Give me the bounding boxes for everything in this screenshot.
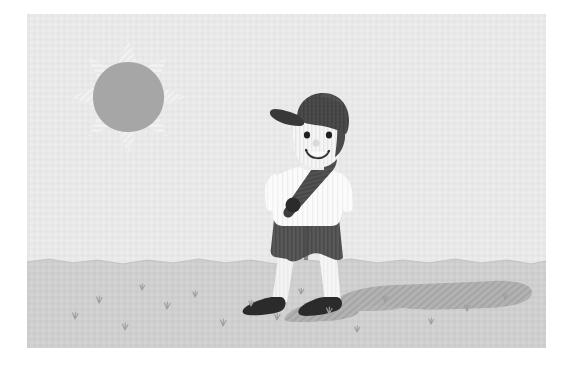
scene-svg xyxy=(27,14,546,348)
sun-icon xyxy=(93,62,164,132)
illustration-canvas xyxy=(27,14,546,348)
boy-eye-right xyxy=(326,131,332,138)
boy-eye-left xyxy=(304,131,310,138)
illustration-stage xyxy=(0,0,574,367)
